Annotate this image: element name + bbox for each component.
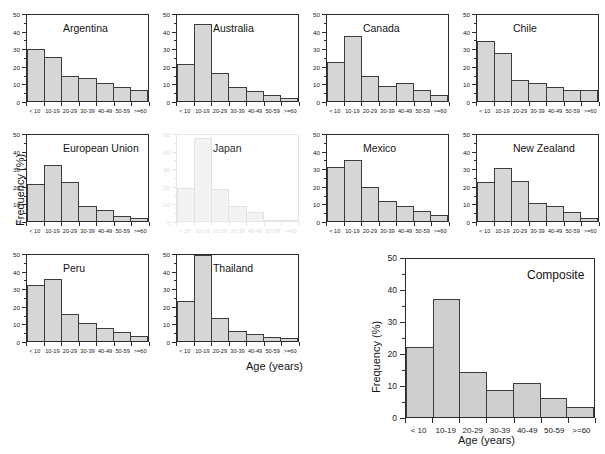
y-tick-composite-5 xyxy=(400,258,405,259)
y-minor-tick-composite xyxy=(402,274,405,275)
y-tick-label-composite-5: 50 xyxy=(379,253,397,263)
y-tick-label-composite-0: 0 xyxy=(379,413,397,423)
x-tick-composite-1 xyxy=(432,418,433,423)
x-tick-label-composite-5: 50-59 xyxy=(544,426,564,435)
x-tick-label-composite-0: < 10 xyxy=(411,426,427,435)
figure-y-axis-title: Frequency (%) xyxy=(14,154,26,226)
y-tick-composite-3 xyxy=(400,322,405,323)
x-tick-composite-0 xyxy=(405,418,406,423)
bar-composite-4 xyxy=(513,383,541,417)
x-tick-composite-4 xyxy=(514,418,515,423)
composite-x-axis-title: Age (years) xyxy=(458,434,515,446)
bars-composite xyxy=(406,259,594,417)
figure-x-axis-title: Age (years) xyxy=(246,360,303,372)
x-tick-composite-2 xyxy=(459,418,460,423)
y-tick-label-composite-4: 40 xyxy=(379,285,397,295)
y-tick-composite-4 xyxy=(400,290,405,291)
plot-area-composite xyxy=(405,258,595,418)
bar-composite-0 xyxy=(406,347,434,417)
bar-composite-5 xyxy=(540,398,568,417)
y-minor-tick-composite xyxy=(402,338,405,339)
y-minor-tick-composite xyxy=(402,370,405,371)
panel-composite: Composite01020304050< 1010-1920-2930-394… xyxy=(0,0,605,454)
panel-title-composite: Composite xyxy=(527,268,584,282)
bar-composite-1 xyxy=(433,299,461,417)
bar-composite-6 xyxy=(566,407,594,417)
x-tick-label-composite-1: 10-19 xyxy=(435,426,455,435)
y-tick-composite-2 xyxy=(400,354,405,355)
x-tick-composite-3 xyxy=(486,418,487,423)
bar-composite-2 xyxy=(459,372,487,417)
x-tick-composite-6 xyxy=(568,418,569,423)
y-minor-tick-composite xyxy=(402,306,405,307)
bar-composite-3 xyxy=(486,390,514,417)
y-tick-composite-1 xyxy=(400,386,405,387)
composite-y-axis-title: Frequency (%) xyxy=(370,321,382,393)
x-tick-label-composite-4: 40-49 xyxy=(517,426,537,435)
y-minor-tick-composite xyxy=(402,402,405,403)
x-tick-composite-7 xyxy=(595,418,596,423)
x-tick-composite-5 xyxy=(541,418,542,423)
x-tick-label-composite-6: >=60 xyxy=(572,426,590,435)
